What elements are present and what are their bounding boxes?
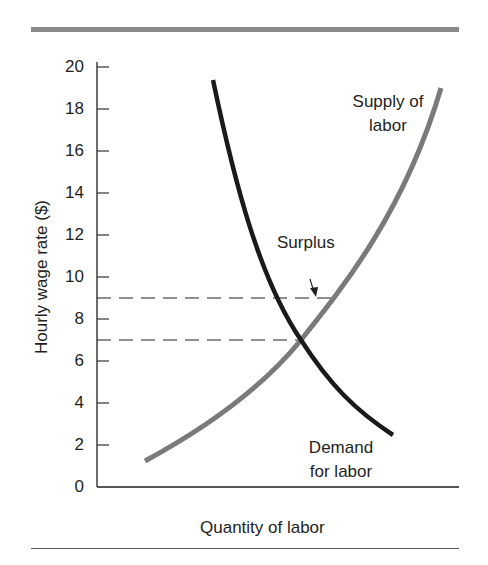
y-axis-label: Hourly wage rate ($) xyxy=(32,200,52,354)
supply-curve xyxy=(145,88,441,461)
x-axis-label: Quantity of labor xyxy=(200,518,325,538)
y-ticks xyxy=(97,67,109,445)
y-tick-label: 16 xyxy=(44,141,84,161)
y-tick-label: 4 xyxy=(44,393,84,413)
y-tick-label: 0 xyxy=(44,477,84,497)
demand-label: Demand for labor xyxy=(296,436,386,484)
bottom-rule xyxy=(31,548,459,549)
y-tick-label: 18 xyxy=(44,99,84,119)
supply-label: Supply of labor xyxy=(338,90,438,138)
y-tick-label: 2 xyxy=(44,435,84,455)
demand-label-line1: Demand xyxy=(296,436,386,460)
supply-label-line2: labor xyxy=(338,114,438,138)
supply-label-line1: Supply of xyxy=(338,90,438,114)
surplus-label: Surplus xyxy=(277,231,335,255)
y-tick-label: 20 xyxy=(44,57,84,77)
arrowhead-icon xyxy=(310,287,318,297)
demand-label-line2: for labor xyxy=(296,460,386,484)
